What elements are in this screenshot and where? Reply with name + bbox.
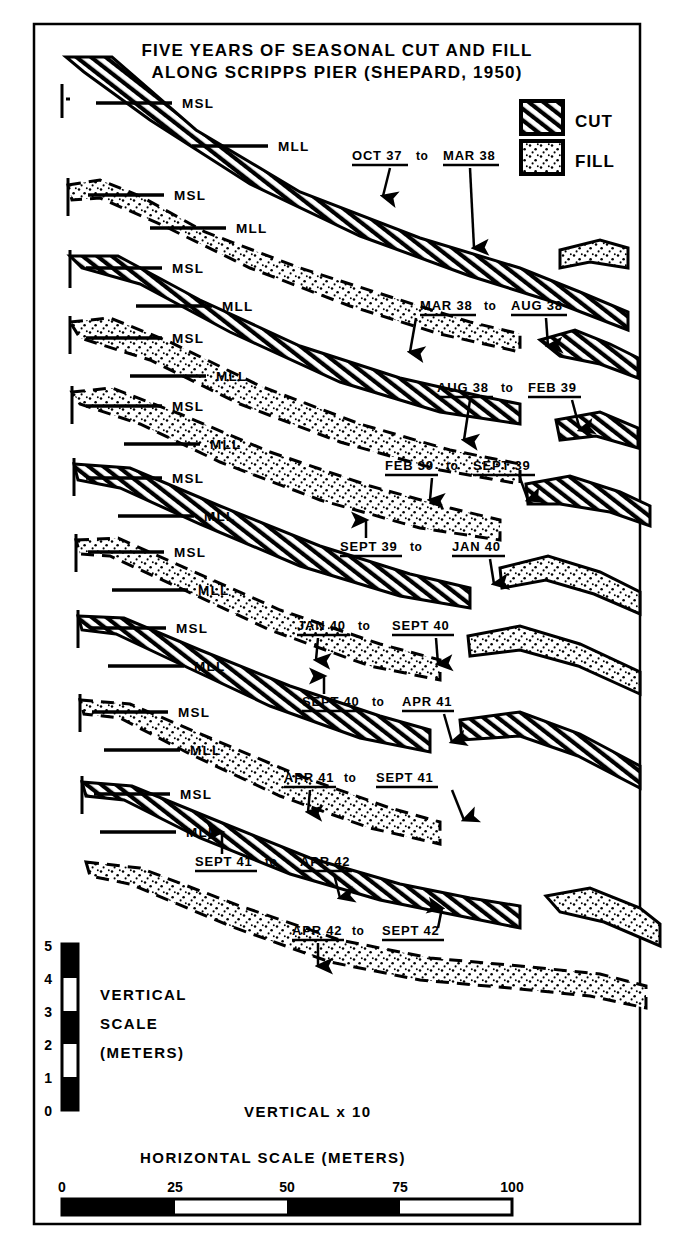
vertical-scale-seg-3 (62, 1011, 78, 1044)
horizontal-scale-tick-100: 100 (500, 1179, 524, 1195)
msl-label-9: MSL (178, 705, 210, 720)
legend-label-fill: FILL (575, 152, 615, 171)
vertical-scale-seg-1 (62, 1077, 78, 1110)
vertical-scale-tick-5: 5 (44, 938, 52, 954)
interval-to-5: JAN 40 (452, 539, 501, 554)
horizontal-scale-tick-0: 0 (58, 1179, 66, 1195)
mll-label-6: MLL (204, 509, 235, 524)
vertical-scale-tick-4: 4 (44, 971, 52, 987)
interval-connector-3: to (501, 381, 513, 395)
legend-label-cut: CUT (575, 112, 613, 131)
interval-to-3: FEB 39 (528, 380, 577, 395)
interval-connector-8: to (344, 771, 356, 785)
interval-connector-6: to (358, 619, 370, 633)
vertical-exaggeration-label: VERTICAL x 10 (244, 1103, 372, 1120)
mll-label-4: MLL (216, 369, 247, 384)
horizontal-scale-tick-75: 75 (392, 1179, 408, 1195)
msl-label-8: MSL (176, 621, 208, 636)
mll-label-9: MLL (190, 743, 221, 758)
vertical-scale-tick-1: 1 (44, 1070, 52, 1086)
interval-connector-2: to (484, 299, 496, 313)
horizontal-scale-tick-25: 25 (167, 1179, 183, 1195)
mll-label-3: MLL (222, 299, 253, 314)
interval-from-1: OCT 37 (352, 148, 402, 163)
interval-from-4: FEB 39 (385, 458, 434, 473)
mll-label-7: MLL (198, 583, 229, 598)
vertical-scale-title-line1: VERTICAL (100, 986, 187, 1003)
msl-label-7: MSL (174, 545, 206, 560)
interval-from-8: APR 41 (284, 770, 334, 785)
msl-label-6: MSL (172, 471, 204, 486)
vertical-scale-title-line2: SCALE (100, 1015, 158, 1032)
vertical-scale-tick-0: 0 (44, 1103, 52, 1119)
interval-connector-7: to (372, 695, 384, 709)
interval-connector-4: to (446, 459, 458, 473)
interval-to-1: MAR 38 (443, 148, 495, 163)
interval-to-6: SEPT 40 (392, 618, 450, 633)
mll-label-1: MLL (278, 139, 309, 154)
vertical-scale-tick-3: 3 (44, 1004, 52, 1020)
horizontal-scale-seg-1 (62, 1199, 175, 1215)
msl-label-2: MSL (174, 188, 206, 203)
interval-to-7: APR 41 (402, 694, 452, 709)
interval-from-6: JAN 40 (297, 618, 346, 633)
mll-label-5: MLL (210, 437, 241, 452)
interval-to-8: SEPT 41 (376, 770, 434, 785)
interval-to-4: SEPT 39 (473, 458, 531, 473)
msl-label-3: MSL (172, 261, 204, 276)
figure-title-line2: ALONG SCRIPPS PIER (SHEPARD, 1950) (151, 63, 522, 82)
vertical-scale-seg-5 (62, 944, 78, 978)
msl-label-1: MSL (182, 96, 214, 111)
figure-title-line1: FIVE YEARS OF SEASONAL CUT AND FILL (141, 41, 532, 60)
horizontal-scale-tick-50: 50 (279, 1179, 295, 1195)
msl-label-5: MSL (172, 399, 204, 414)
interval-from-7: SEPT 40 (302, 694, 360, 709)
horizontal-scale-title: HORIZONTAL SCALE (METERS) (140, 1149, 406, 1166)
interval-connector-1: to (416, 149, 428, 163)
vertical-scale-tick-2: 2 (44, 1037, 52, 1053)
interval-connector-5: to (410, 540, 422, 554)
horizontal-scale-seg-3 (287, 1199, 400, 1215)
interval-from-5: SEPT 39 (340, 539, 398, 554)
msl-label-10: MSL (180, 787, 212, 802)
msl-label-4: MSL (172, 331, 204, 346)
interval-to-10: SEPT 42 (382, 923, 440, 938)
interval-from-3: AUG 38 (437, 380, 489, 395)
interval-connector-10: to (352, 924, 364, 938)
interval-from-9: SEPT 41 (195, 854, 253, 869)
interval-to-2: AUG 38 (511, 298, 563, 313)
mll-label-8: MLL (194, 659, 225, 674)
vertical-scale-title-line3: (METERS) (100, 1044, 185, 1061)
interval-from-2: MAR 38 (420, 298, 472, 313)
legend-swatch-fill (521, 141, 563, 174)
mll-label-2: MLL (236, 221, 267, 236)
interval-to-9: APR 42 (300, 854, 350, 869)
mll-label-10: MLL (186, 825, 217, 840)
legend-swatch-cut (521, 101, 563, 134)
figure-panel: FIVE YEARS OF SEASONAL CUT AND FILL ALON… (0, 0, 674, 1247)
interval-from-10: APR 42 (292, 923, 342, 938)
interval-connector-9: to (265, 855, 277, 869)
